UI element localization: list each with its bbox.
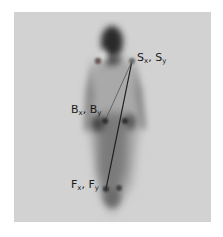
keypoint-figure: Sx, Sy Bx, By Fx, Fy [0, 0, 223, 237]
label-foot: Fx, Fy [71, 178, 99, 192]
keypoint-foot-left [103, 186, 109, 192]
keypoint-shoulder-right [129, 58, 135, 64]
keypoint-foot-right [116, 185, 122, 191]
label-belly: Bx, By [71, 103, 101, 117]
label-shoulder: Sx, Sy [137, 51, 166, 65]
keypoint-belly-right [122, 118, 128, 124]
keypoint-belly-left [102, 118, 108, 124]
keypoint-shoulder-left [95, 58, 101, 64]
